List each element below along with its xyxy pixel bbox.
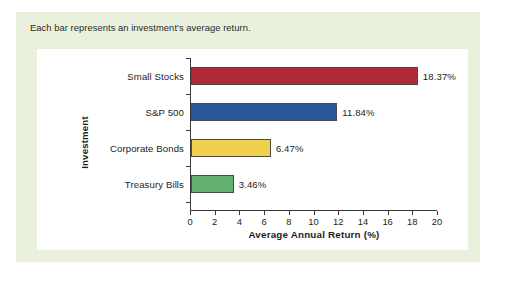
x-tick — [437, 211, 438, 215]
x-tick-label: 2 — [204, 216, 226, 227]
x-tick — [338, 211, 339, 215]
bar-chart: Investment Average Annual Return (%) 024… — [37, 49, 468, 250]
x-tick-label: 12 — [327, 216, 349, 227]
x-axis-title: Average Annual Return (%) — [190, 229, 438, 240]
bar-value-label: 11.84% — [342, 107, 374, 118]
chart-card: Investment Average Annual Return (%) 024… — [37, 49, 468, 250]
bar — [191, 175, 234, 193]
x-tick — [388, 211, 389, 215]
x-tick — [289, 211, 290, 215]
figure-caption: Each bar represents an investment's aver… — [30, 22, 450, 34]
x-tick — [412, 211, 413, 215]
y-tick — [186, 202, 190, 203]
category-label: S&P 500 — [64, 107, 184, 118]
x-tick-label: 10 — [303, 216, 325, 227]
x-tick — [190, 211, 191, 215]
bar — [191, 139, 271, 157]
bar-value-label: 18.37% — [423, 71, 456, 82]
y-tick — [186, 166, 190, 167]
x-tick-label: 8 — [278, 216, 300, 227]
x-tick-label: 6 — [253, 216, 275, 227]
y-tick — [186, 58, 190, 59]
figure-panel: Each bar represents an investment's aver… — [16, 12, 480, 262]
y-tick — [186, 130, 190, 131]
x-tick-label: 4 — [228, 216, 250, 227]
x-tick — [264, 211, 265, 215]
x-tick — [239, 211, 240, 215]
x-tick-label: 20 — [426, 216, 448, 227]
bar-value-label: 6.47% — [276, 143, 304, 154]
category-label: Small Stocks — [64, 71, 184, 82]
figure-page: Each bar represents an investment's aver… — [0, 0, 509, 284]
bar — [191, 103, 337, 121]
x-tick — [215, 211, 216, 215]
bar-value-label: 3.46% — [239, 179, 267, 190]
x-tick-label: 14 — [352, 216, 374, 227]
bar — [191, 67, 418, 85]
x-tick — [314, 211, 315, 215]
x-tick — [363, 211, 364, 215]
x-tick-label: 0 — [179, 216, 201, 227]
x-tick-label: 18 — [401, 216, 423, 227]
x-tick-label: 16 — [377, 216, 399, 227]
category-label: Treasury Bills — [64, 179, 184, 190]
category-label: Corporate Bonds — [64, 143, 184, 154]
y-tick — [186, 94, 190, 95]
